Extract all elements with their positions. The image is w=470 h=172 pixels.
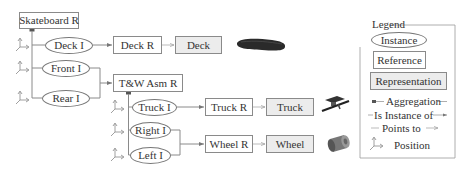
wheel-reference[interactable]: Wheel R <box>205 135 253 153</box>
front-instance-label: Front I <box>51 63 81 74</box>
deck-reference-label: Deck R <box>121 40 154 51</box>
rear-instance-label: Rear I <box>52 93 79 104</box>
deck-instance-label: Deck I <box>54 40 84 51</box>
left-instance-label: Left I <box>138 150 163 161</box>
legend-reference-label: Reference <box>377 55 422 66</box>
tw-asm-reference-label: T&W Asm R <box>119 78 177 89</box>
legend-is-instance-of: Is Instance of <box>374 109 433 121</box>
right-instance-label: Right I <box>135 125 166 136</box>
wheel-reference-label: Wheel R <box>210 139 249 150</box>
legend-instance: Instance <box>371 32 427 48</box>
legend-points-to: Points to <box>382 122 421 134</box>
wheel-representation-label: Wheel <box>276 139 305 150</box>
legend-representation-label: Representation <box>376 76 442 87</box>
deck-reference[interactable]: Deck R <box>113 36 162 54</box>
deck-representation-label: Deck <box>187 40 210 51</box>
legend-representation: Representation <box>370 72 447 90</box>
right-instance[interactable]: Right I <box>130 122 171 139</box>
rear-instance[interactable]: Rear I <box>42 90 90 107</box>
skateboard-deck-image <box>237 39 285 51</box>
deck-representation[interactable]: Deck <box>175 36 222 54</box>
truck-instance[interactable]: Truck I <box>132 99 177 116</box>
tw-asm-reference[interactable]: T&W Asm R <box>113 74 183 92</box>
deck-instance[interactable]: Deck I <box>45 37 93 54</box>
truck-representation-label: Truck <box>277 102 303 113</box>
truck-instance-label: Truck I <box>138 102 170 113</box>
legend-position-icon <box>370 137 383 150</box>
skateboard-reference[interactable]: Skateboard R <box>19 12 79 29</box>
truck-reference[interactable]: Truck R <box>205 98 253 116</box>
skateboard-reference-label: Skateboard R <box>19 15 79 26</box>
wheel-representation[interactable]: Wheel <box>266 135 314 153</box>
left-instance[interactable]: Left I <box>130 147 171 164</box>
legend-reference: Reference <box>373 51 426 69</box>
front-instance[interactable]: Front I <box>42 60 90 77</box>
truck-reference-label: Truck R <box>211 102 247 113</box>
product-structure-diagram: Skateboard R Deck I Front I Rear I Truck… <box>0 0 470 172</box>
legend-title: Legend <box>372 18 405 30</box>
truck-representation[interactable]: Truck <box>266 98 314 116</box>
wheel-image <box>326 134 351 152</box>
legend-position: Position <box>394 139 430 151</box>
truck-image <box>322 96 349 111</box>
legend-instance-label: Instance <box>381 35 418 46</box>
legend-aggregation: Aggregation <box>386 95 441 107</box>
